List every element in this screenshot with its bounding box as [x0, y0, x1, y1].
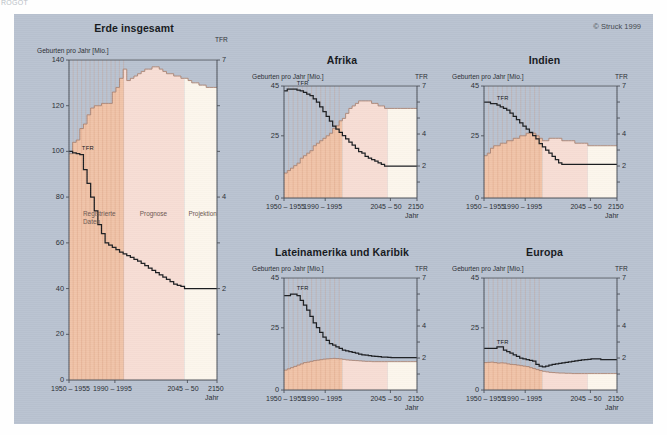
tfr-series-tag: TFR [497, 339, 509, 345]
x-tick-label: 2045 – 50 [570, 203, 601, 210]
y-axis-label: Geburten pro Jahr [Mio.] [37, 47, 108, 54]
zone-label-projection: Projektion [188, 210, 216, 218]
x-tick-label: 1990 – 1995 [93, 385, 132, 392]
chart-panel-indien: IndienGeburten pro Jahr [Mio.]TFR0254524… [442, 54, 647, 234]
copyright-notice: © Struck 1999 [593, 22, 641, 31]
x-axis-name: Jahr [605, 404, 619, 411]
x-tick-label: 2045 – 50 [370, 203, 401, 210]
y-tick-label: 0 [42, 375, 64, 384]
x-tick-label: 2045 – 50 [570, 395, 601, 402]
y-axis-label: Geburten pro Jahr [Mio.] [252, 73, 323, 80]
tfr-series-tag: TFR [297, 285, 309, 291]
x-tick-label: 2150 [208, 385, 224, 392]
x-tick-label: 1990 – 1995 [503, 203, 542, 210]
tfr-tick-label: 4 [422, 129, 426, 138]
x-tick-label: 2045 – 50 [167, 385, 198, 392]
tfr-series-tag: TFR [497, 95, 509, 101]
x-tick-label: 1950 – 1955 [466, 395, 505, 402]
chart-panel-afrika: AfrikaGeburten pro Jahr [Mio.]TFR0254524… [242, 54, 442, 234]
y-tick-label: 25 [257, 323, 279, 332]
tfr-tick-label: 7 [222, 55, 226, 64]
x-axis-name: Jahr [405, 212, 419, 219]
zone-label-forecast: Prognose [140, 210, 167, 218]
tfr-tick-label: 7 [622, 273, 626, 282]
tfr-tick-label: 2 [622, 353, 626, 362]
y-axis-label: Geburten pro Jahr [Mio.] [252, 265, 323, 272]
corner-artifact-text: ROGOT [1, 0, 28, 7]
poster-canvas: © Struck 1999 Erde insgesamtGeburten pro… [14, 14, 653, 424]
x-tick-label: 1990 – 1995 [303, 203, 342, 210]
y-tick-label: 25 [257, 131, 279, 140]
tfr-series-tag: TFR [82, 145, 94, 151]
x-tick-label: 1950 – 1955 [51, 385, 90, 392]
y-axis-label: Geburten pro Jahr [Mio.] [452, 73, 523, 80]
x-tick-label: 2150 [408, 203, 424, 210]
tfr-series-tag: TFR [297, 80, 309, 86]
y-tick-label: 25 [457, 323, 479, 332]
x-tick-label: 2150 [608, 395, 624, 402]
y-tick-label: 45 [457, 273, 479, 282]
y-tick-label: 45 [257, 81, 279, 90]
y-tick-label: 60 [42, 238, 64, 247]
y-tick-label: 100 [42, 146, 64, 155]
y-tick-label: 20 [42, 329, 64, 338]
tfr-tick-label: 7 [622, 81, 626, 90]
x-tick-label: 1990 – 1995 [503, 395, 542, 402]
tfr-tick-label: 7 [422, 81, 426, 90]
y-tick-label: 45 [457, 81, 479, 90]
x-tick-label: 1950 – 1955 [266, 203, 305, 210]
tfr-tick-label: 4 [622, 321, 626, 330]
tfr-tick-label: 4 [622, 129, 626, 138]
y-axis-label: Geburten pro Jahr [Mio.] [452, 265, 523, 272]
tfr-tick-label: 2 [422, 161, 426, 170]
chart-panel-erde: Erde insgesamtGeburten pro Jahr [Mio.]TF… [24, 20, 244, 412]
x-axis-name: Jahr [405, 404, 419, 411]
y-tick-label: 120 [42, 101, 64, 110]
tfr-tick-label: 2 [222, 284, 226, 293]
x-tick-label: 2150 [408, 395, 424, 402]
x-axis-name: Jahr [605, 212, 619, 219]
tfr-axis-label: TFR [615, 73, 628, 80]
y-tick-label: 140 [42, 55, 64, 64]
x-axis-name: Jahr [205, 394, 219, 401]
y-tick-label: 0 [457, 193, 479, 202]
x-tick-label: 1950 – 1955 [466, 203, 505, 210]
chart-panel-lateinamerika: Lateinamerika und KaribikGeburten pro Ja… [242, 246, 442, 426]
tfr-axis-label: TFR [415, 73, 428, 80]
tfr-tick-label: 4 [422, 321, 426, 330]
poster-root: ROGOT © Struck 1999 Erde insgesamtGeburt… [0, 0, 667, 435]
x-tick-label: 2045 – 50 [370, 395, 401, 402]
tfr-tick-label: 2 [422, 353, 426, 362]
x-tick-label: 2150 [608, 203, 624, 210]
y-tick-label: 40 [42, 284, 64, 293]
chart-panel-europa: EuropaGeburten pro Jahr [Mio.]TFR0254524… [442, 246, 647, 426]
x-tick-label: 1950 – 1955 [266, 395, 305, 402]
tfr-tick-label: 2 [622, 161, 626, 170]
y-tick-label: 80 [42, 192, 64, 201]
y-tick-label: 45 [257, 273, 279, 282]
x-tick-label: 1990 – 1995 [303, 395, 342, 402]
tfr-tick-label: 4 [222, 192, 226, 201]
y-tick-label: 0 [257, 193, 279, 202]
zone-label-registered: Registrierte Daten [83, 210, 116, 225]
tfr-axis-label: TFR [415, 265, 428, 272]
tfr-axis-label: TFR [215, 36, 228, 43]
y-tick-label: 0 [257, 385, 279, 394]
tfr-tick-label: 7 [422, 273, 426, 282]
tfr-axis-label: TFR [615, 265, 628, 272]
y-tick-label: 25 [457, 131, 479, 140]
y-tick-label: 0 [457, 385, 479, 394]
